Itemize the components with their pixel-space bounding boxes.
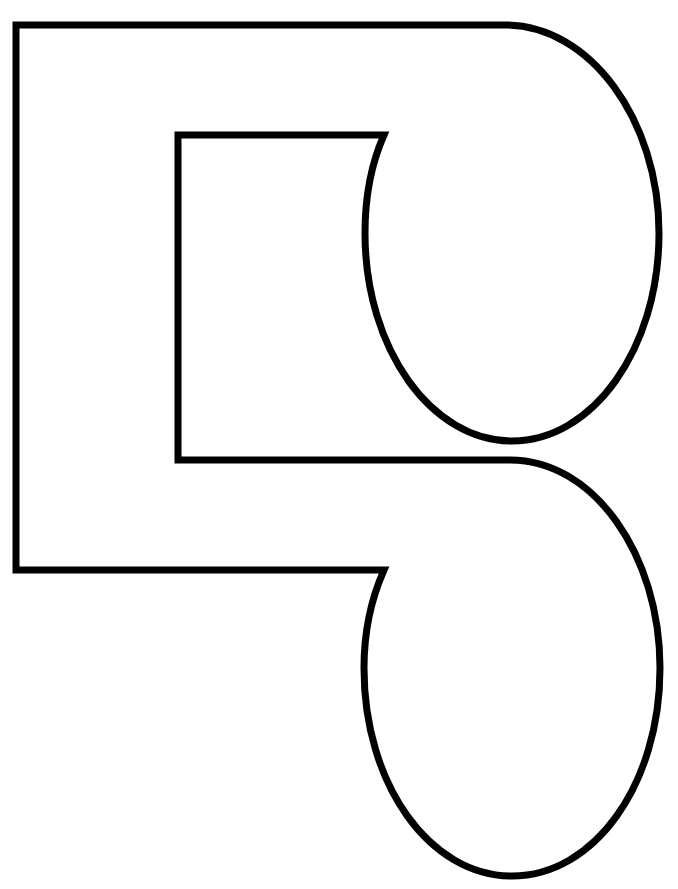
numeral-outline-figure (0, 0, 678, 889)
page-canvas (0, 0, 678, 889)
numeral-outline-path (16, 25, 660, 876)
